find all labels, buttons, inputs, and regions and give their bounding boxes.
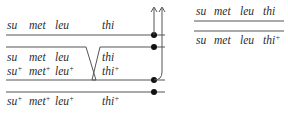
thi-markers — [151, 7, 165, 95]
svg-text:thi+: thi+ — [263, 33, 280, 46]
svg-text:met: met — [214, 5, 231, 17]
svg-text:thi: thi — [263, 5, 275, 17]
svg-text:met: met — [29, 51, 46, 63]
strand-3-label: su+ met+ leu+ thi+ — [7, 64, 119, 77]
svg-text:met: met — [214, 34, 231, 46]
arrow-shaft-2 — [154, 8, 162, 80]
marker-dot — [151, 44, 157, 50]
svg-text:su: su — [7, 51, 17, 63]
svg-text:met: met — [29, 19, 46, 31]
recombination-diagram: su met leu thi su met leu thi su+ met+ l… — [0, 0, 288, 113]
svg-text:thi: thi — [102, 19, 114, 31]
svg-text:leu: leu — [240, 5, 254, 17]
svg-text:thi: thi — [102, 51, 114, 63]
strand-lines — [6, 35, 165, 92]
svg-text:su: su — [196, 5, 206, 17]
svg-text:su+: su+ — [7, 64, 22, 77]
strand-4-label: su+ met+ leu+ thi+ — [7, 94, 119, 107]
svg-text:met+: met+ — [29, 64, 51, 77]
svg-text:su: su — [7, 19, 17, 31]
svg-text:leu: leu — [240, 34, 254, 46]
marker-dot — [151, 89, 157, 95]
svg-text:leu: leu — [55, 19, 69, 31]
svg-text:leu: leu — [55, 51, 69, 63]
product-2: su met leu thi+ — [194, 31, 284, 46]
svg-text:met+: met+ — [29, 94, 51, 107]
svg-text:su+: su+ — [7, 94, 22, 107]
svg-text:leu+: leu+ — [55, 64, 74, 77]
strand-1-label: su met leu thi — [7, 19, 114, 31]
product-1: su met leu thi — [194, 5, 284, 21]
svg-text:su: su — [196, 34, 206, 46]
svg-text:thi+: thi+ — [102, 94, 119, 107]
svg-text:leu+: leu+ — [55, 94, 74, 107]
svg-text:thi+: thi+ — [102, 64, 119, 77]
